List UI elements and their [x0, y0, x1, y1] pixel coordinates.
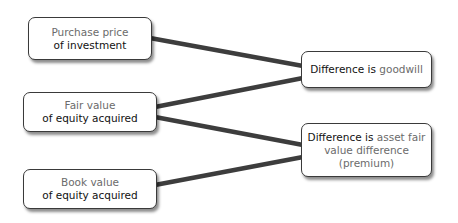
- premium-text-line3: (premium): [339, 157, 394, 170]
- book-value-label: Book value: [61, 176, 119, 189]
- premium-text-line2: value difference: [324, 144, 409, 157]
- connector-purchase-to-goodwill: [150, 38, 303, 66]
- purchase-price-sublabel: of investment: [54, 39, 127, 52]
- connector-book-to-premium: [155, 157, 303, 185]
- premium-prefix: Difference is: [308, 131, 374, 143]
- fair-value-label: Fair value: [65, 99, 116, 112]
- premium-suffix: asset fair: [377, 131, 426, 143]
- book-value-box: Book value of equity acquired: [23, 169, 157, 209]
- connector-fair-to-goodwill: [155, 78, 303, 107]
- premium-box: Difference is asset fair value differenc…: [301, 123, 432, 177]
- premium-text-line1: Difference is asset fair: [308, 131, 426, 144]
- goodwill-box: Difference is goodwill: [301, 51, 432, 88]
- purchase-price-label: Purchase price: [51, 26, 128, 39]
- fair-value-sublabel: of equity acquired: [42, 112, 137, 125]
- connector-fair-to-premium: [155, 117, 303, 145]
- book-value-sublabel: of equity acquired: [42, 189, 137, 202]
- goodwill-text: Difference is goodwill: [310, 63, 423, 76]
- goodwill-prefix: Difference is: [310, 63, 376, 75]
- purchase-price-box: Purchase price of investment: [28, 17, 152, 60]
- goodwill-suffix: goodwill: [379, 63, 423, 75]
- fair-value-box: Fair value of equity acquired: [23, 92, 157, 132]
